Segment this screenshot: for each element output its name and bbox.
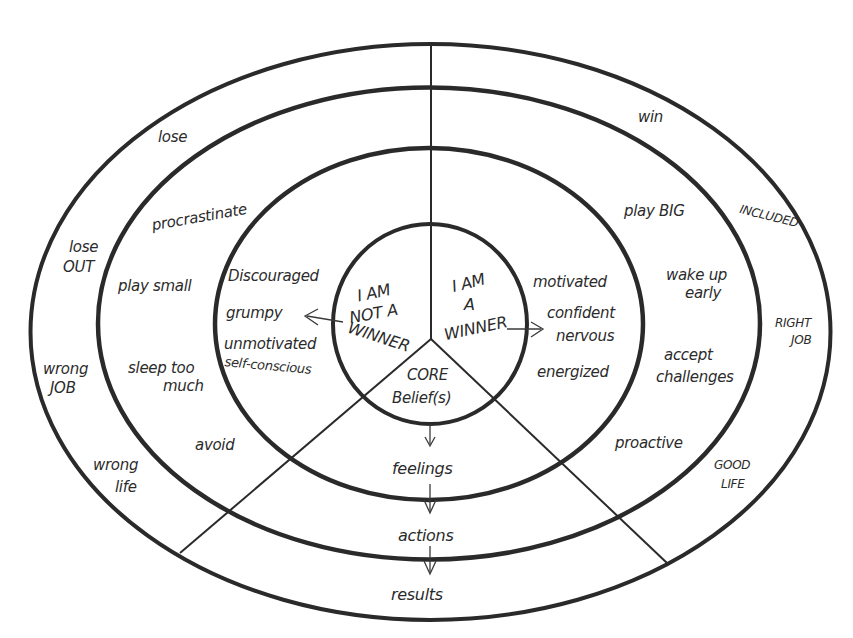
arrow-down-icon xyxy=(425,424,435,446)
feelings-ring xyxy=(215,148,643,500)
actions-ring xyxy=(98,88,760,560)
belief-line: WINNER xyxy=(442,312,508,344)
result-win: win xyxy=(638,108,663,126)
feeling-confident: confident xyxy=(547,304,616,322)
result-right-job: RIGHT xyxy=(775,316,813,330)
arrow-left-icon xyxy=(305,309,343,325)
feeling-nervous: nervous xyxy=(556,327,615,345)
belief-line: WINNER xyxy=(345,318,412,356)
result-lose-out: lose xyxy=(69,238,98,256)
action-avoid: avoid xyxy=(195,436,235,454)
result-good-life: LIFE xyxy=(721,477,745,491)
result-wrong-life: life xyxy=(115,478,137,496)
feeling-self-conscious: self-conscious xyxy=(224,354,313,377)
action-accept-challenges: accept xyxy=(664,346,714,364)
result-lose-out: OUT xyxy=(63,258,96,276)
feeling-energized: energized xyxy=(537,363,610,381)
action-procrastinate: procrastinate xyxy=(149,200,248,235)
beliefs-label: Belief(s) xyxy=(392,389,451,407)
belief-not-winner: I AM NOT A WINNER xyxy=(345,280,412,356)
core-beliefs-label: CORE Belief(s) xyxy=(392,366,451,407)
action-accept-challenges: challenges xyxy=(656,368,734,386)
action-wake-up-early: early xyxy=(685,284,723,302)
feeling-discouraged: Discouraged xyxy=(228,267,320,285)
belief-winner: I AM A WINNER xyxy=(442,269,508,344)
result-good-life: GOOD xyxy=(714,458,750,472)
action-wake-up-early: wake up xyxy=(666,266,727,284)
belief-line: A xyxy=(463,295,475,314)
results-label: results xyxy=(391,585,443,604)
belief-line: I AM xyxy=(450,269,487,296)
core-belief-diagram: I AM NOT A WINNER I AM A WINNER CORE Bel… xyxy=(0,0,853,638)
feeling-motivated: motivated xyxy=(533,273,608,291)
action-play-small: play small xyxy=(117,277,193,295)
feeling-unmotivated: unmotivated xyxy=(224,335,317,353)
result-wrong-job: JOB xyxy=(47,379,76,397)
feeling-grumpy: grumpy xyxy=(226,304,284,322)
core-label: CORE xyxy=(407,366,449,384)
action-proactive: proactive xyxy=(614,434,683,452)
feelings-label: feelings xyxy=(392,459,452,478)
result-lose: lose xyxy=(158,128,187,146)
action-play-big: play BIG xyxy=(623,202,684,220)
result-wrong-job: wrong xyxy=(43,360,88,378)
action-sleep-too-much: sleep too xyxy=(128,359,194,377)
result-right-job: JOB xyxy=(789,333,811,347)
action-sleep-too-much: much xyxy=(163,377,204,395)
actions-label: actions xyxy=(398,526,454,545)
result-wrong-life: wrong xyxy=(93,456,138,474)
